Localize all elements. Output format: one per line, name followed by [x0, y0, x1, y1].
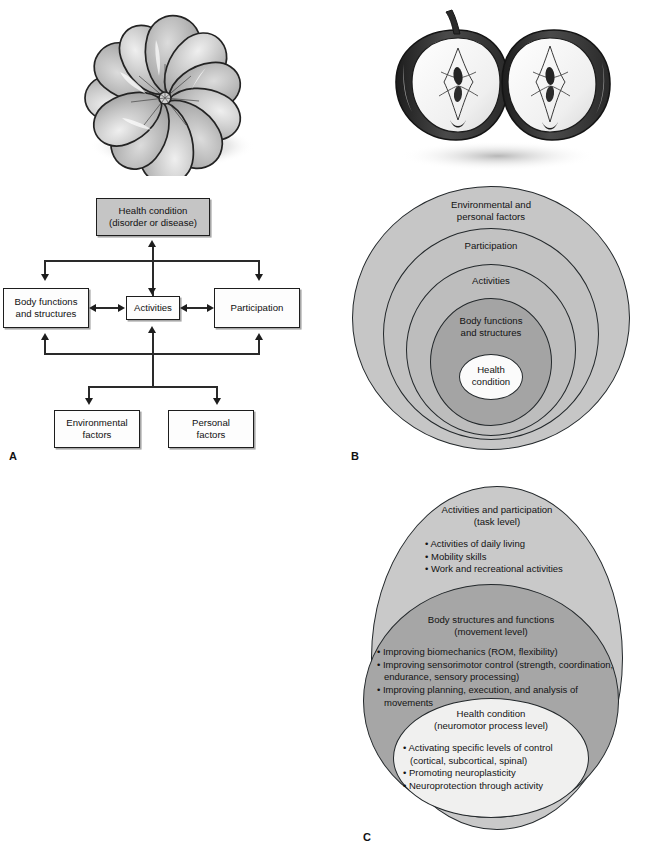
box-environmental-factors[interactable]: Environmental factors	[54, 410, 140, 448]
box-activities-label: Activities	[134, 302, 172, 314]
bullet-item: • Improving sensorimotor control (streng…	[377, 659, 619, 684]
arrow-down-participation	[255, 274, 263, 281]
arrow-up-into-activities	[148, 326, 156, 333]
bus-bottom-right-rise	[258, 340, 260, 354]
ring-health-condition-label: Health condition	[460, 364, 522, 388]
level-activities-and-participation-bullets: • Activities of daily living • Mobility …	[425, 538, 615, 576]
level-health-condition-title: Health condition (neuromotor process lev…	[393, 708, 589, 732]
level-activities-and-participation-title: Activities and participation (task level…	[371, 504, 623, 528]
ring-activities-label: Activities	[407, 275, 575, 287]
connector-factors-activities	[152, 332, 154, 388]
bus-top-horizontal	[44, 260, 260, 262]
bus-factors-horizontal	[88, 386, 218, 388]
ring-health-condition[interactable]: Health condition	[459, 354, 523, 400]
arrow-down-activities	[148, 288, 156, 295]
arrow-up-into-participation	[255, 333, 263, 340]
arrow-right-participation	[207, 304, 214, 312]
arrow-up-into-body-functions	[41, 333, 49, 340]
box-health-condition-label: Health condition (disorder or disease)	[109, 205, 197, 228]
arrow-left-activities-right	[180, 304, 187, 312]
bullet-item: • Activating specific levels of control …	[403, 742, 585, 767]
arrow-right-activities-left	[118, 304, 125, 312]
panel-label-a: A	[9, 451, 17, 462]
box-activities[interactable]: Activities	[126, 296, 180, 320]
ring-body-functions-structures-label: Body functions and structures	[431, 315, 551, 339]
box-body-functions-label: Body functions and structures	[15, 296, 78, 319]
panel-b: Environmental and personal factors Parti…	[352, 186, 632, 454]
bus-bottom-left-rise	[44, 340, 46, 354]
arrow-down-body-functions	[41, 274, 49, 281]
panel-label-b: B	[351, 451, 359, 462]
panel-a: Health condition (disorder or disease) B…	[0, 188, 330, 468]
bullet-item: • Improving biomechanics (ROM, flexibili…	[377, 646, 619, 659]
arrow-down-environmental	[85, 398, 93, 405]
figure-canvas: Health condition (disorder or disease) B…	[0, 0, 645, 852]
box-participation[interactable]: Participation	[214, 288, 300, 328]
bullet-item: • Activities of daily living	[425, 538, 615, 551]
bullet-item: • Work and recreational activities	[425, 563, 615, 576]
arrow-left-body	[89, 304, 96, 312]
ring-environmental-personal-factors-label: Environmental and personal factors	[353, 199, 629, 223]
box-body-functions-structures[interactable]: Body functions and structures	[3, 288, 89, 328]
ring-participation-label: Participation	[384, 240, 598, 252]
panel-c: Activities and participation (task level…	[355, 486, 635, 832]
connector-activities-participation	[187, 307, 209, 309]
box-participation-label: Participation	[231, 302, 284, 314]
box-health-condition[interactable]: Health condition (disorder or disease)	[96, 198, 210, 236]
bullet-item: • Neuroprotection through activity	[403, 780, 585, 793]
box-personal-factors-label: Personal factors	[192, 417, 230, 440]
bullet-item: • Promoting neuroplasticity	[403, 767, 585, 780]
level-body-structures-and-functions-title: Body structures and functions (movement …	[363, 614, 619, 638]
arrow-down-personal	[213, 398, 221, 405]
box-personal-factors[interactable]: Personal factors	[168, 410, 254, 448]
panel-label-c: C	[363, 832, 371, 843]
bullet-item: • Mobility skills	[425, 551, 615, 564]
box-environmental-factors-label: Environmental factors	[66, 417, 127, 440]
arrow-up-health	[148, 240, 156, 247]
level-health-condition-bullets: • Activating specific levels of control …	[403, 742, 585, 793]
connector-body-activities	[96, 307, 120, 309]
halved-apple-illustration	[378, 8, 623, 176]
segmented-orange-illustration	[60, 6, 275, 176]
